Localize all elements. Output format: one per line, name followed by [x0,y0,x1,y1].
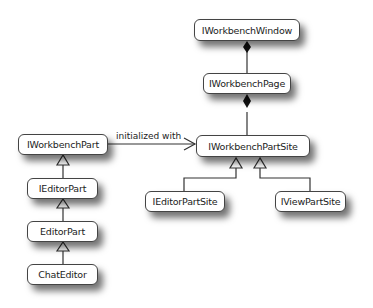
node-chateditor: ChatEditor [27,264,98,285]
edge-label-initialized-with: initialized with [116,131,181,141]
composition-diamond-icon [243,94,251,108]
node-iworkbenchpartsite: IWorkbenchPartSite [196,135,310,157]
node-iworkbenchpage: IWorkbenchPage [203,73,291,94]
node-iviewpartsite: IViewPartSite [275,191,346,212]
generalization-triangle-icon [57,199,69,208]
node-ieditorpart: IEditorPart [27,178,98,199]
generalization-triangle-icon [254,158,266,168]
uml-diagram: IWorkbenchWindow IWorkbenchPage IWorkben… [0,0,373,308]
node-iworkbenchpart: IWorkbenchPart [18,134,108,155]
composition-diamond-icon [243,41,251,53]
generalization-triangle-icon [57,155,69,165]
generalization-triangle-icon [57,242,69,251]
node-iworkbenchwindow: IWorkbenchWindow [194,19,300,41]
node-ieditorpartsite: IEditorPartSite [145,191,225,212]
generalization-triangle-icon [230,158,242,168]
node-editorpart: EditorPart [27,221,98,242]
